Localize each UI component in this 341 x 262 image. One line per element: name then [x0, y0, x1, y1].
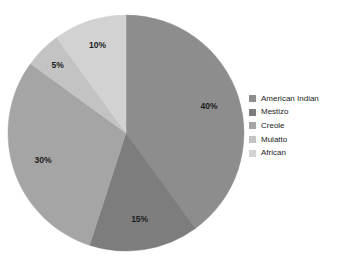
pie-slice-value-label: 30%	[34, 155, 51, 165]
legend-item-african[interactable]: African	[249, 146, 341, 160]
legend-item-mestizo[interactable]: Mestizo	[249, 106, 341, 120]
chart-legend: American IndianMestizoCreoleMulattoAfric…	[249, 92, 341, 160]
legend-item-creole[interactable]: Creole	[249, 119, 341, 133]
legend-swatch-icon	[249, 109, 256, 116]
pie-chart-figure: 40%15%30%5%10% American IndianMestizoCre…	[0, 0, 341, 262]
legend-item-american-indian[interactable]: American Indian	[249, 92, 341, 106]
pie-slice-value-label: 5%	[51, 60, 64, 70]
legend-item-label: Mulatto	[261, 136, 287, 144]
legend-item-label: Mestizo	[261, 108, 289, 116]
pie-plot-area: 40%15%30%5%10%	[0, 0, 248, 262]
legend-swatch-icon	[249, 122, 256, 129]
pie-slice-value-label: 40%	[201, 101, 218, 111]
pie-slice-value-label: 15%	[131, 214, 148, 224]
legend-item-label: African	[261, 149, 286, 157]
pie-slice-group	[8, 15, 244, 251]
legend-item-mulatto[interactable]: Mulatto	[249, 133, 341, 147]
legend-swatch-icon	[249, 136, 256, 143]
pie-slice-value-label: 10%	[89, 40, 106, 50]
legend-swatch-icon	[249, 150, 256, 157]
legend-item-label: Creole	[261, 122, 285, 130]
legend-item-label: American Indian	[261, 95, 319, 103]
legend-swatch-icon	[249, 95, 256, 102]
pie-svg: 40%15%30%5%10%	[0, 0, 248, 262]
